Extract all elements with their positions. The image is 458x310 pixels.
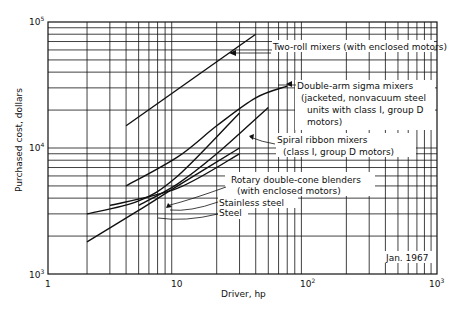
label-double-arm-2: (jacketed, nonvacuum steel xyxy=(301,93,426,103)
x-tick-1: 1 xyxy=(45,279,51,289)
x-tick-1000: 103 xyxy=(429,277,444,289)
label-two-roll: Two-roll mixers (with enclosed motors) xyxy=(272,42,447,52)
data-curves xyxy=(87,34,287,242)
x-tick-100: 102 xyxy=(300,277,315,289)
label-rotary-1: Rotary double-cone blenders xyxy=(231,175,361,185)
series-curve-1 xyxy=(126,86,287,186)
y-tick-1000: 103 xyxy=(29,268,44,280)
y-tick-100000: 105 xyxy=(29,15,44,27)
label-double-arm-4: motors) xyxy=(307,117,342,127)
series-curve-0 xyxy=(126,34,256,126)
label-stainless: Stainless steel xyxy=(219,198,284,208)
label-double-arm-1: Double-arm sigma mixers xyxy=(297,81,413,91)
label-steel: Steel xyxy=(219,208,242,218)
x-axis-label: Driver, hp xyxy=(221,289,266,299)
label-spiral-1: Spiral ribbon mixers xyxy=(277,135,368,145)
label-spiral-2: (class I, group D motors) xyxy=(283,147,394,157)
y-axis-label: Purchased cost, dollars xyxy=(14,88,24,192)
label-rotary-2: (with enclosed motors) xyxy=(237,186,341,196)
y-tick-10000: 104 xyxy=(29,141,44,153)
date-annotation: Jan. 1967 xyxy=(385,253,429,263)
cost-chart: Two-roll mixers (with enclosed motors) D… xyxy=(0,0,458,310)
label-double-arm-3: units with class I, group D xyxy=(307,105,424,115)
x-tick-10: 10 xyxy=(171,279,183,289)
